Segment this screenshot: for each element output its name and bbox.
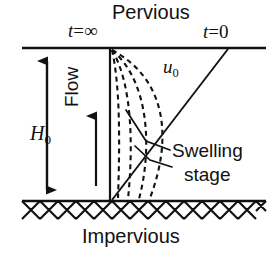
t-zero-operator: = (208, 21, 219, 42)
isochrone-curves (112, 50, 162, 199)
swelling-stage-label-line1: Swelling (172, 141, 243, 160)
swelling-stage-leader-lines (126, 110, 172, 167)
t-infinity-label: t=∞ (68, 21, 98, 40)
t-zero-value: 0 (219, 21, 229, 42)
swelling-stage-label-line2: stage (184, 165, 230, 184)
swelling-stage-diagram: Pervious Impervious t=∞ t=0 u0 H0 Flow S… (0, 0, 280, 259)
impervious-hatching (22, 201, 266, 219)
layer-thickness-label: H0 (30, 123, 51, 146)
u0-subscript: 0 (173, 66, 179, 80)
isochrone-curve-1 (112, 50, 119, 198)
t-zero-label: t=0 (203, 22, 229, 41)
t-infinity-operator: = (73, 20, 84, 41)
h0-variable: H (30, 122, 44, 144)
u0-variable: u (163, 56, 173, 77)
bottom-boundary-label: Impervious (82, 226, 180, 246)
t-infinity-value: ∞ (84, 20, 98, 41)
flow-label: Flow (62, 67, 81, 107)
top-boundary-label: Pervious (112, 2, 190, 22)
initial-pore-pressure-label: u0 (163, 57, 179, 79)
h0-subscript: 0 (44, 132, 51, 147)
leader-line-1 (126, 110, 170, 150)
